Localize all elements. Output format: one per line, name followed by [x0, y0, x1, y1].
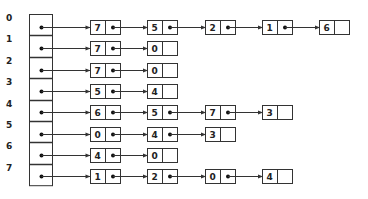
list-node: 2	[206, 21, 263, 35]
node-value: 4	[95, 151, 101, 161]
node-value: 2	[210, 23, 216, 33]
index-label: 3	[6, 77, 12, 87]
node-value: 7	[210, 108, 216, 118]
list-node: 5	[148, 21, 206, 35]
list-node: 1	[91, 170, 148, 184]
list-node: 0	[91, 128, 148, 142]
node-value: 0	[152, 151, 158, 161]
list-row-0: 75216	[40, 21, 350, 35]
list-node: 7	[206, 106, 263, 120]
index-label: 6	[6, 141, 12, 151]
node-value: 0	[210, 172, 216, 182]
node-value: 0	[95, 130, 101, 140]
node-value: 3	[267, 108, 273, 118]
node-value: 3	[210, 130, 216, 140]
list-node: 4	[148, 85, 178, 99]
index-array: 01234567	[6, 13, 53, 186]
node-value: 4	[152, 130, 158, 140]
node-value: 6	[324, 23, 330, 33]
node-value: 5	[152, 23, 158, 33]
index-label: 5	[6, 120, 12, 130]
list-row-6: 40	[40, 149, 178, 163]
list-node: 6	[91, 106, 148, 120]
list-row-4: 6573	[40, 106, 293, 120]
list-node: 2	[148, 170, 206, 184]
node-value: 7	[95, 66, 101, 76]
list-node: 0	[148, 149, 178, 163]
list-node: 4	[263, 170, 293, 184]
node-value: 1	[95, 172, 101, 182]
list-row-3: 54	[40, 85, 178, 99]
list-node: 0	[148, 64, 178, 78]
list-node: 3	[263, 106, 293, 120]
index-label: 2	[6, 56, 12, 66]
list-node: 3	[206, 128, 236, 142]
list-node: 0	[206, 170, 263, 184]
list-row-7: 1204	[40, 170, 293, 184]
node-value: 5	[152, 108, 158, 118]
node-value: 0	[152, 66, 158, 76]
list-node: 4	[148, 128, 206, 142]
adjacency-list-diagram: 01234567 752167070546573043401204	[0, 0, 368, 199]
node-value: 4	[152, 87, 158, 97]
node-value: 7	[95, 23, 101, 33]
index-label: 4	[6, 99, 12, 109]
node-value: 2	[152, 172, 158, 182]
index-label: 1	[6, 34, 12, 44]
list-node: 6	[320, 21, 350, 35]
list-node: 7	[91, 64, 148, 78]
linked-lists: 752167070546573043401204	[40, 21, 350, 184]
list-node: 1	[263, 21, 320, 35]
list-row-5: 043	[40, 128, 236, 142]
node-value: 5	[95, 87, 101, 97]
list-row-2: 70	[40, 64, 178, 78]
node-value: 0	[152, 44, 158, 54]
list-row-1: 70	[40, 42, 178, 56]
node-value: 7	[95, 44, 101, 54]
node-value: 1	[267, 23, 273, 33]
node-value: 6	[95, 108, 101, 118]
list-node: 0	[148, 42, 178, 56]
list-node: 7	[91, 42, 148, 56]
index-label: 0	[6, 13, 12, 23]
index-label: 7	[6, 163, 12, 173]
list-node: 7	[91, 21, 148, 35]
node-value: 4	[267, 172, 273, 182]
list-node: 4	[91, 149, 148, 163]
list-node: 5	[148, 106, 206, 120]
list-node: 5	[91, 85, 148, 99]
